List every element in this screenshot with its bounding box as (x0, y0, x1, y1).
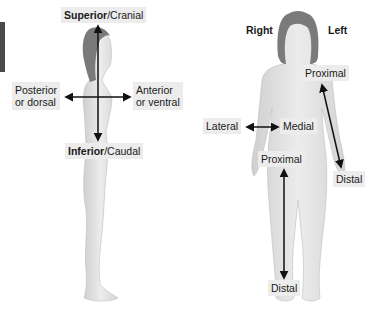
anterior-ventral-label: Anterior or ventral (133, 82, 183, 110)
superior-term: Superior (64, 9, 107, 21)
inferior-term: Inferior (68, 145, 104, 157)
medial-label: Medial (280, 118, 317, 134)
caudal-term: /Caudal (104, 145, 140, 157)
lateral-figure (83, 27, 118, 301)
posterior-dorsal-label: Posterior or dorsal (12, 82, 60, 110)
figures-canvas (0, 0, 372, 309)
posterior-term: Posterior (15, 84, 57, 96)
leg-distal-label: Distal (268, 280, 300, 296)
left-label: Left (328, 24, 347, 36)
ventral-term: or ventral (136, 96, 180, 108)
anterior-term: Anterior (136, 84, 180, 96)
dorsal-term: or dorsal (15, 96, 57, 108)
superior-cranial-label: Superior/Cranial (61, 7, 146, 23)
right-label: Right (246, 24, 273, 36)
cranial-term: /Cranial (107, 9, 143, 21)
leg-proximal-label: Proximal (258, 151, 305, 167)
arm-proximal-label: Proximal (302, 65, 349, 81)
inferior-caudal-label: Inferior/Caudal (65, 143, 143, 159)
lateral-label: Lateral (203, 118, 241, 134)
arm-distal-label: Distal (333, 171, 365, 187)
